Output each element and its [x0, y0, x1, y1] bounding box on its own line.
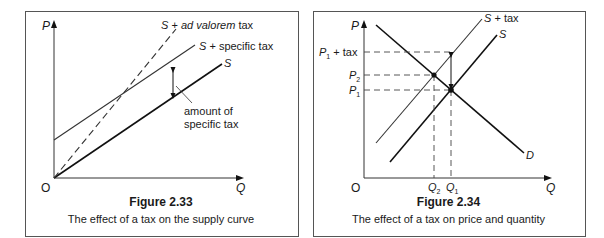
- ad-valorem-curve: [54, 29, 176, 178]
- axis-label-p-2: P: [351, 20, 359, 32]
- origin-label-2: O: [351, 182, 360, 194]
- figure-2-33-title: Figure 2.33: [25, 195, 297, 209]
- figure-2-33-caption: The effect of a tax on the supply curve: [25, 213, 297, 225]
- q1-label: Q1: [446, 182, 458, 195]
- supply-label: S: [224, 58, 231, 69]
- p1-plus-tax-label: P1 + tax: [319, 47, 357, 60]
- demand-label: D: [526, 150, 534, 161]
- origin-label: O: [41, 182, 50, 194]
- amount-specific-tax-label: amount of specific tax: [184, 105, 238, 131]
- supply-label-2: S: [499, 29, 506, 40]
- p1-label: P1: [349, 85, 360, 98]
- axis-label-p: P: [42, 20, 50, 32]
- p2-label: P2: [349, 70, 360, 83]
- q2-label: Q2: [428, 182, 440, 195]
- figure-2-34-title: Figure 2.34: [313, 195, 584, 209]
- axis-label-q-2: Q: [546, 182, 555, 194]
- axis-label-q: Q: [236, 182, 245, 194]
- figure-2-34-caption: The effect of a tax on price and quantit…: [313, 213, 584, 225]
- supply-tax-label: S + tax: [484, 13, 519, 24]
- ad-valorem-label: S + ad valorem tax: [161, 20, 253, 31]
- specific-tax-label: S + specific tax: [199, 41, 273, 52]
